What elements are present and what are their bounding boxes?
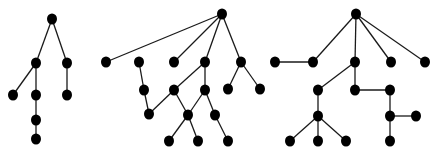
graph-node [285,136,295,147]
edge [36,19,52,63]
graph-node [386,57,396,68]
graph-node [313,111,323,122]
edge [313,14,356,62]
graph-node [31,90,41,101]
graph-node [31,58,41,69]
graph-node [411,111,421,122]
edge [318,62,355,90]
graph-node [62,90,72,101]
graph-node [236,57,246,68]
graph-node [169,57,179,68]
edge [318,116,346,141]
edge [106,14,222,62]
graph-node [200,85,210,96]
graph-node [270,57,280,68]
tree-2-edges [106,14,260,141]
graph-node [223,84,233,95]
edge [174,62,205,90]
graph-node [420,57,430,68]
graph-node [144,109,154,120]
edge [52,19,67,63]
graph-node [183,110,193,121]
graph-node [351,9,361,20]
graph-node [47,14,57,25]
graph-node [223,136,233,147]
tree-3-edges [275,14,425,141]
edge [205,14,222,62]
tree-3-nodes [270,9,430,147]
graph-node [31,134,41,145]
graph-node [313,136,323,147]
tree-1-nodes [8,14,72,145]
graph-node [8,90,18,101]
edge [13,63,36,95]
edge [356,14,425,62]
graph-node [62,58,72,69]
graph-node [385,85,395,96]
edge [290,116,318,141]
graph-node [101,57,111,68]
graph-node [164,136,174,147]
graph-node [210,110,220,121]
graph-node [308,57,318,68]
graph-node [255,84,265,95]
graph-node [313,85,323,96]
graph-node [350,85,360,96]
graph-node [139,85,149,96]
edge [222,14,241,62]
edge [355,14,356,62]
graph-node [385,136,395,147]
graph-node [169,85,179,96]
graph-node [217,9,227,20]
graph-node [31,115,41,126]
graph-node [350,57,360,68]
graph-node [341,136,351,147]
edges-layer [13,14,425,141]
tree-2-nodes [101,9,265,147]
graph-node [200,57,210,68]
graph-diagram [0,0,439,152]
graph-node [193,136,203,147]
graph-node [134,57,144,68]
graph-node [385,111,395,122]
edge [356,14,391,62]
edge [174,14,222,62]
